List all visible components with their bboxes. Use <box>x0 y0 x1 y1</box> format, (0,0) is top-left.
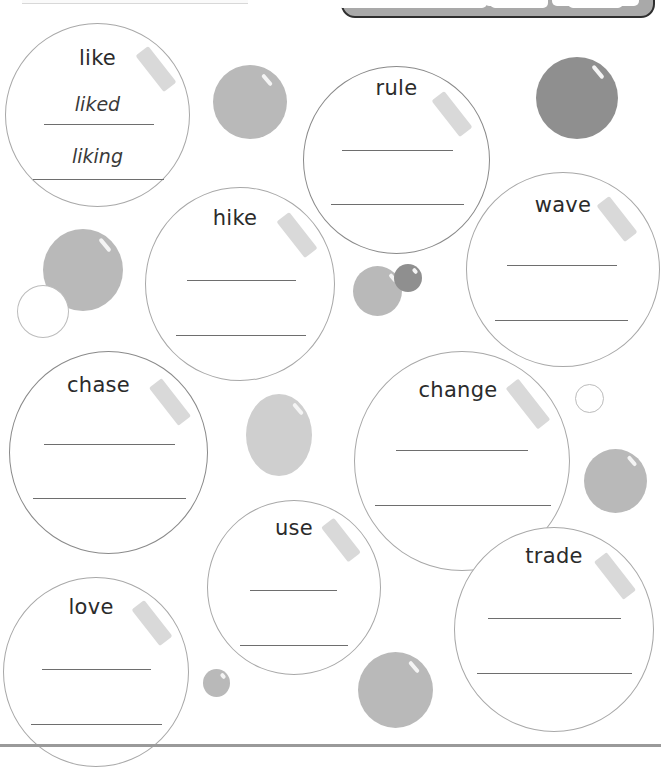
word-bubble-hike: hike <box>145 187 335 381</box>
decorative-bubble-dark <box>536 57 618 139</box>
answer-line-2[interactable] <box>375 505 551 506</box>
base-word: like <box>6 46 189 70</box>
answer-ing[interactable]: liking <box>6 145 189 167</box>
base-word: rule <box>304 76 489 100</box>
answer-line-1[interactable] <box>507 265 617 266</box>
word-bubble-trade: trade <box>454 527 654 732</box>
answer-line-1[interactable] <box>488 618 621 619</box>
word-bank-chip-ing <box>484 0 528 6</box>
answer-line-2[interactable] <box>495 320 628 321</box>
decorative-bubble-light <box>246 394 312 476</box>
word-bank-chip-ed <box>417 0 472 6</box>
page-bottom-edge <box>0 744 661 747</box>
base-word: change <box>351 378 565 402</box>
top-left-strip <box>22 0 248 4</box>
answer-line <box>33 179 164 180</box>
word-bank-chip-like <box>363 0 407 6</box>
word-bubble-rule: rule <box>303 66 490 254</box>
base-word: use <box>208 516 380 540</box>
base-word: chase <box>0 373 197 397</box>
decorative-bubble-outline <box>17 285 69 338</box>
word-bubble-like: like liked liking <box>5 23 190 207</box>
answer-line-1[interactable] <box>342 150 453 151</box>
answer-line-1[interactable] <box>250 590 337 591</box>
decorative-bubble <box>213 65 287 139</box>
answer-line-1[interactable] <box>44 444 175 445</box>
answer-line-2[interactable] <box>477 673 632 674</box>
decorative-bubble <box>358 652 433 728</box>
base-word: hike <box>141 206 329 230</box>
answer-ed[interactable]: liked <box>6 93 189 115</box>
base-word: trade <box>455 544 653 568</box>
answer-line-2[interactable] <box>33 498 186 499</box>
answer-line-1[interactable] <box>396 450 528 451</box>
answer-line-2[interactable] <box>240 645 348 646</box>
answer-line-1[interactable] <box>42 669 151 670</box>
answer-line-2[interactable] <box>176 335 306 336</box>
answer-line <box>44 124 154 125</box>
base-word: wave <box>467 193 659 217</box>
decorative-bubble-dark <box>394 264 422 292</box>
word-bubble-use: use <box>207 500 381 675</box>
word-bubble-love: love <box>3 577 189 767</box>
word-bubble-wave: wave <box>466 172 660 367</box>
decorative-bubble <box>584 449 647 513</box>
answer-line-2[interactable] <box>31 724 162 725</box>
answer-line-2[interactable] <box>331 204 464 205</box>
word-bubble-chase: chase <box>9 351 208 554</box>
decorative-bubble-outline <box>575 384 604 413</box>
decorative-bubble <box>203 669 230 697</box>
answer-line-1[interactable] <box>187 280 296 281</box>
base-word: love <box>0 595 183 619</box>
word-bank-chip-driving <box>552 0 639 6</box>
